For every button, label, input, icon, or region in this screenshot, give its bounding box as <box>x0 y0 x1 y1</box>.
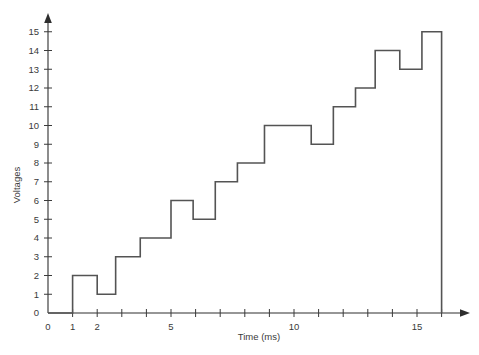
x-tick-label: 15 <box>412 321 423 332</box>
y-tick-label: 7 <box>34 176 39 187</box>
x-tick-label: 5 <box>168 321 173 332</box>
x-tick-label: 1 <box>70 321 75 332</box>
y-axis-title: Voltages <box>11 167 22 204</box>
y-axis-arrow-icon <box>44 13 52 23</box>
y-tick-label: 13 <box>28 64 39 75</box>
x-axis <box>48 309 470 317</box>
voltage-step-series <box>48 32 442 313</box>
y-tick-label: 2 <box>34 270 39 281</box>
y-tick-label: 12 <box>28 82 39 93</box>
x-axis-arrow-icon <box>460 309 470 317</box>
x-axis-title: Time (ms) <box>238 331 280 342</box>
y-tick-label: 5 <box>34 214 39 225</box>
y-tick-label: 3 <box>34 251 39 262</box>
x-tick-label: 0 <box>45 321 50 332</box>
x-tick-label: 2 <box>95 321 100 332</box>
y-tick-label: 10 <box>28 120 39 131</box>
y-tick-label: 0 <box>34 307 39 318</box>
x-tick-label-group: 01251015 <box>45 321 422 332</box>
y-tick-label: 15 <box>28 26 39 37</box>
y-tick-label: 14 <box>28 45 39 56</box>
y-tick-label: 8 <box>34 157 39 168</box>
x-tick-label: 10 <box>289 321 300 332</box>
y-tick-label: 9 <box>34 139 39 150</box>
step-chart: 0123456789101112131415 01251015 Time (ms… <box>0 0 479 355</box>
y-tick-label: 1 <box>34 289 39 300</box>
chart-container: 0123456789101112131415 01251015 Time (ms… <box>0 0 479 355</box>
y-tick-label-group: 0123456789101112131415 <box>28 26 39 318</box>
y-tick-label: 6 <box>34 195 39 206</box>
y-tick-label: 4 <box>34 232 39 243</box>
y-tick-label: 11 <box>29 101 39 112</box>
